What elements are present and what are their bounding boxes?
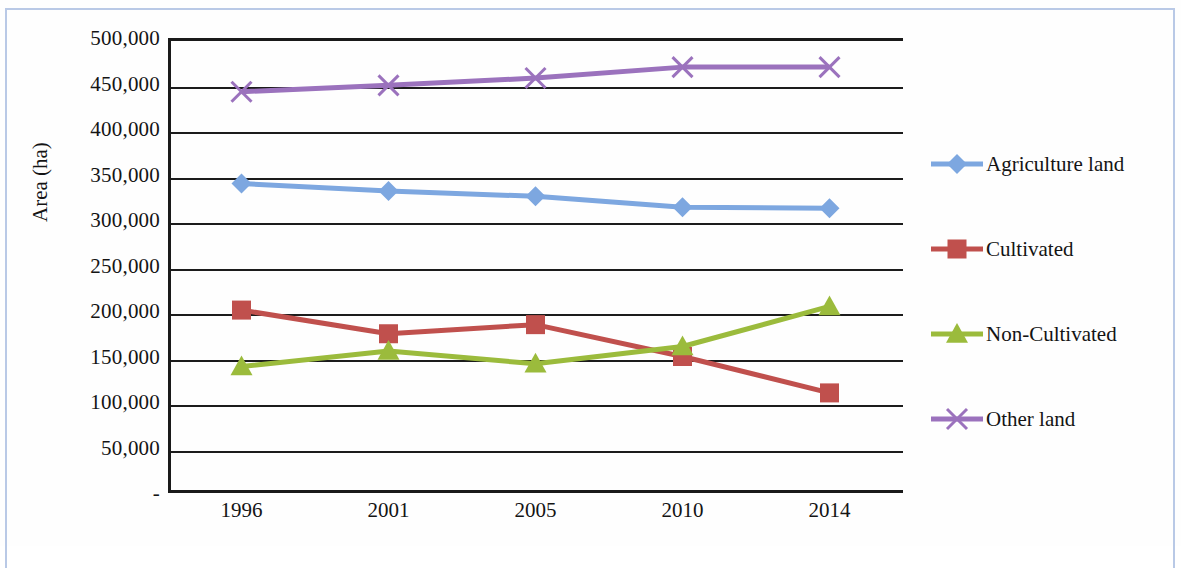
y-axis-tick-label: 450,000 [50, 73, 160, 94]
legend-item-cultivated[interactable]: Cultivated [930, 235, 1176, 263]
x-axis-tick-label: 1996 [182, 498, 302, 523]
legend-swatch-square-icon [930, 238, 984, 260]
chart-legend: Agriculture landCultivatedNon-Cultivated… [930, 150, 1176, 490]
data-point-marker [526, 315, 545, 334]
legend-label: Cultivated [986, 239, 1074, 260]
data-point-marker [820, 383, 839, 402]
data-point-marker [820, 198, 840, 218]
x-axis-tick-label: 2001 [329, 498, 449, 523]
data-point-marker [232, 301, 251, 320]
series-other-land [232, 57, 840, 102]
data-point-marker [819, 295, 841, 315]
y-axis-tick-label: 150,000 [50, 346, 160, 367]
y-axis-tick-label: 100,000 [50, 392, 160, 413]
y-axis-tick-label: 200,000 [50, 301, 160, 322]
legend-label: Non-Cultivated [986, 324, 1117, 345]
legend-label: Other land [986, 409, 1075, 430]
legend-label: Agriculture land [986, 154, 1124, 175]
data-point-marker [948, 240, 967, 259]
y-axis-tick-label: 300,000 [50, 210, 160, 231]
series-non-cultivated [231, 295, 841, 375]
data-point-marker [947, 154, 967, 174]
y-axis-tick-label: 400,000 [50, 119, 160, 140]
x-axis-tick-labels: 19962001200520102014 [168, 498, 903, 532]
legend-item-agriculture-land[interactable]: Agriculture land [930, 150, 1176, 178]
legend-swatch-triangle-icon [930, 323, 984, 345]
data-point-marker [526, 186, 546, 206]
legend-swatch-diamond-icon [930, 153, 984, 175]
y-axis-tick-label: 500,000 [50, 28, 160, 49]
legend-item-other-land[interactable]: Other land [930, 405, 1176, 433]
x-axis-tick-label: 2010 [623, 498, 743, 523]
legend-item-non-cultivated[interactable]: Non-Cultivated [930, 320, 1176, 348]
y-axis-tick-labels: 500,000450,000400,000350,000300,000250,0… [38, 38, 160, 493]
data-point-marker [232, 174, 252, 194]
x-axis-tick-label: 2014 [770, 498, 890, 523]
series-agriculture-land [232, 174, 840, 219]
y-axis-tick-label: 50,000 [50, 437, 160, 458]
data-series-layer [168, 38, 903, 493]
legend-swatch-x-icon [930, 408, 984, 430]
data-point-marker [673, 197, 693, 217]
x-axis-tick-label: 2005 [476, 498, 596, 523]
data-point-marker [379, 181, 399, 201]
y-axis-tick-label: - [50, 483, 160, 504]
y-axis-tick-label: 350,000 [50, 164, 160, 185]
series-cultivated [232, 301, 839, 403]
y-axis-tick-label: 250,000 [50, 255, 160, 276]
